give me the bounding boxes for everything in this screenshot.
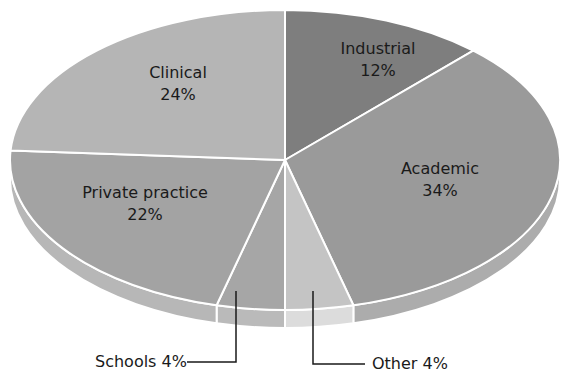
label-private-practice-name: Private practice: [60, 182, 230, 204]
label-academic: Academic 34%: [380, 158, 500, 202]
label-private-practice: Private practice 22%: [60, 182, 230, 226]
label-industrial-name: Industrial: [318, 38, 438, 60]
label-clinical: Clinical 24%: [118, 62, 238, 106]
label-schools: Schools 4%: [95, 352, 187, 371]
label-clinical-name: Clinical: [118, 62, 238, 84]
label-private-practice-pct: 22%: [60, 204, 230, 226]
label-industrial: Industrial 12%: [318, 38, 438, 82]
label-academic-name: Academic: [380, 158, 500, 180]
label-academic-pct: 34%: [380, 180, 500, 202]
label-clinical-pct: 24%: [118, 84, 238, 106]
label-industrial-pct: 12%: [318, 60, 438, 82]
label-other: Other 4%: [372, 354, 448, 373]
